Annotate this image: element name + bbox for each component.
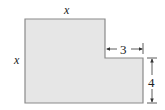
notch-width-label: 3 <box>120 42 127 57</box>
l-shaped-region <box>25 19 143 103</box>
left-side-label: x <box>13 53 20 67</box>
l-shape-diagram: x x 3 4 <box>0 0 165 110</box>
notch-height-label: 4 <box>148 75 155 90</box>
top-side-label: x <box>63 3 70 17</box>
